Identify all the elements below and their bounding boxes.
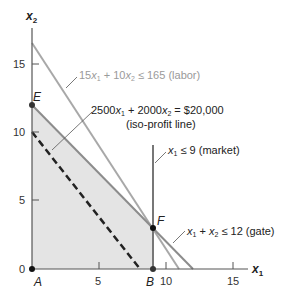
point-a-label: A xyxy=(34,276,42,288)
point-f-marker xyxy=(150,225,156,231)
x-tick-label-15: 15 xyxy=(227,276,239,287)
market-constraint-label: x1 ≤ 9 (market) xyxy=(168,145,240,157)
point-b-label: B xyxy=(146,276,154,288)
gate-constraint-label: x1 + x2 ≤ 12 (gate) xyxy=(187,226,275,238)
point-b-marker xyxy=(150,266,156,272)
x-tick-label-5: 5 xyxy=(95,276,101,287)
gate-leader xyxy=(173,231,185,243)
point-a-marker xyxy=(29,266,35,272)
lp-diagram xyxy=(0,0,294,300)
x-tick-label-10: 10 xyxy=(160,276,172,287)
labor-leader xyxy=(66,77,77,88)
y-tick-label-10: 10 xyxy=(13,127,25,138)
iso-profit-label: 2500x1 + 2000x2 = $20,000 xyxy=(91,105,224,117)
y-tick-label-0: 0 xyxy=(19,264,25,275)
point-e-label: E xyxy=(33,91,41,103)
x-axis-label: x1 xyxy=(252,263,263,278)
point-f-label: F xyxy=(157,215,164,227)
labor-constraint-label: 15x1 + 10x2 ≤ 165 (labor) xyxy=(79,70,200,82)
y-tick-label-5: 5 xyxy=(19,195,25,206)
market-leader xyxy=(155,152,166,163)
y-tick-label-15: 15 xyxy=(13,59,25,70)
y-axis-label: x2 xyxy=(26,10,37,25)
iso-profit-sublabel: (iso-profit line) xyxy=(126,119,196,130)
